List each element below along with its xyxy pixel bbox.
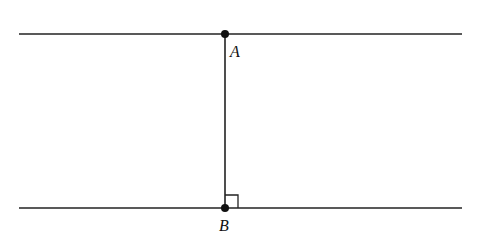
point-a <box>221 30 229 38</box>
point-b <box>221 204 229 212</box>
geometry-diagram: A B <box>0 0 480 241</box>
label-b: B <box>219 217 229 234</box>
label-a: A <box>229 43 240 60</box>
